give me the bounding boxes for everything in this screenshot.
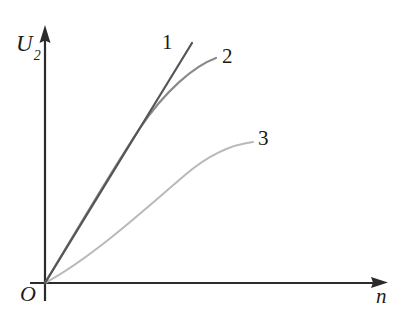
y-axis-label: U2 (16, 32, 40, 60)
curve-1 (45, 43, 192, 283)
figure-canvas: U2 O n 1 2 3 (0, 0, 412, 327)
plot-area (0, 0, 412, 327)
y-axis-label-text: U (16, 31, 33, 56)
curve-3 (45, 142, 253, 283)
curve-1-label: 1 (162, 32, 173, 53)
curve-2-label: 2 (222, 46, 233, 67)
origin-label: O (20, 283, 36, 305)
curve-3-label: 3 (258, 128, 269, 149)
x-axis-label: n (376, 286, 387, 307)
y-axis-label-subscript: 2 (34, 48, 41, 63)
y-axis-arrowhead (40, 25, 51, 43)
